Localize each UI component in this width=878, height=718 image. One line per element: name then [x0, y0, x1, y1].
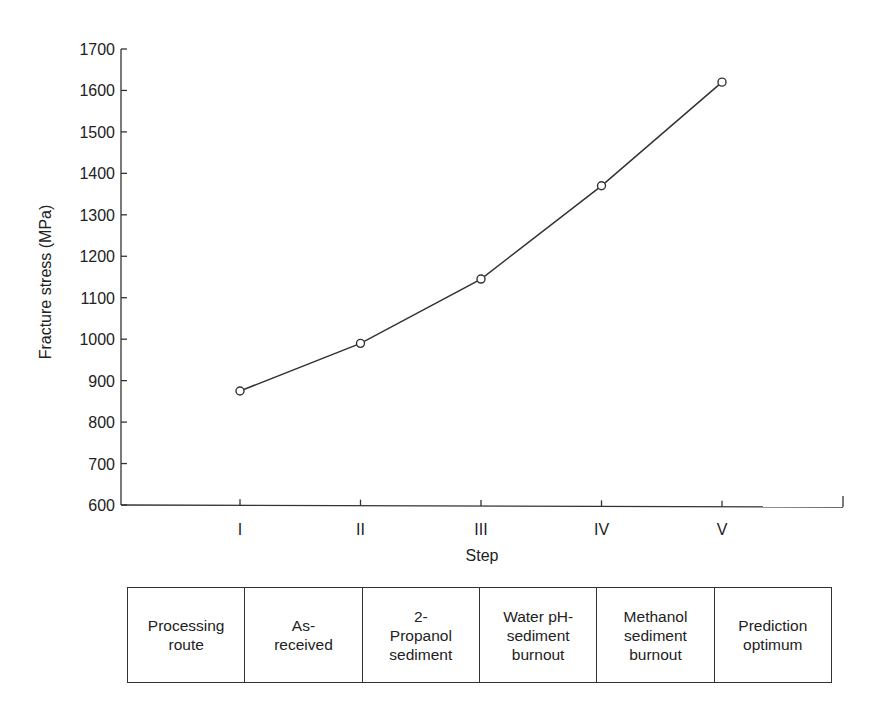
y-tick-label: 1500 [79, 124, 115, 141]
x-axis-title: Step [466, 547, 499, 564]
cell-label: 2- Propanol sediment [389, 608, 452, 663]
cell-label: Processing route [148, 617, 225, 653]
processing-route-table: Processing route As- received 2- Propano… [127, 587, 832, 683]
x-tick-label: IV [594, 521, 609, 538]
y-tick-label: 900 [88, 373, 115, 390]
data-point-marker [236, 387, 244, 395]
y-tick-label: 1600 [79, 82, 115, 99]
cell-label: Water pH- sediment burnout [503, 608, 573, 663]
y-tick-label: 600 [88, 497, 115, 514]
y-tick-label: 1400 [79, 165, 115, 182]
y-tick-label: 1000 [79, 331, 115, 348]
table-cell-step-3: Water pH- sediment burnout [479, 588, 596, 683]
data-point-marker [718, 78, 726, 86]
y-tick-label: 800 [88, 414, 115, 431]
y-tick-label: 1700 [79, 41, 115, 58]
table-cell-step-4: Methanol sediment burnout [597, 588, 714, 683]
data-point-marker [357, 339, 365, 347]
line-chart: 6007008009001000110012001300140015001600… [0, 0, 878, 580]
cell-label: As- received [274, 617, 333, 653]
x-tick-label: III [474, 521, 487, 538]
data-point-marker [477, 275, 485, 283]
cell-label: Methanol sediment burnout [624, 608, 688, 663]
y-axis-title: Fracture stress (MPa) [37, 205, 54, 360]
table-cell-step-2: 2- Propanol sediment [362, 588, 479, 683]
data-point-marker [598, 182, 606, 190]
x-tick-label: II [356, 521, 365, 538]
y-tick-label: 700 [88, 456, 115, 473]
table-cell-header: Processing route [128, 588, 245, 683]
y-axis: 6007008009001000110012001300140015001600… [79, 41, 127, 514]
y-tick-label: 1200 [79, 248, 115, 265]
cell-label: Prediction optimum [738, 617, 807, 653]
table-cell-step-5: Prediction optimum [714, 588, 831, 683]
x-tick-label: V [717, 521, 728, 538]
y-tick-label: 1300 [79, 207, 115, 224]
x-tick-label: I [238, 521, 242, 538]
data-series [236, 78, 726, 395]
table-cell-step-1: As- received [245, 588, 362, 683]
x-axis: IIIIIIIVV [121, 496, 843, 538]
series-line [240, 82, 722, 391]
x-axis-line [121, 505, 843, 507]
y-tick-label: 1100 [81, 290, 116, 307]
table-row: Processing route As- received 2- Propano… [128, 588, 832, 683]
